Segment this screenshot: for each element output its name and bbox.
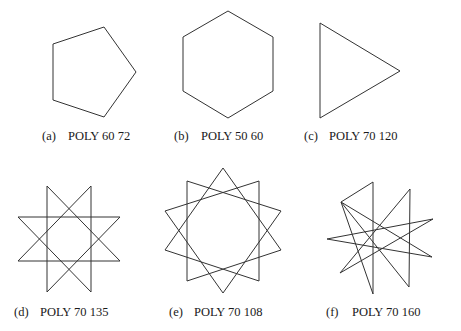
- caption-tag-b: (b): [174, 130, 189, 143]
- hexagon-shape-b: [183, 11, 273, 118]
- caption-label-e: POLY 70 108: [194, 306, 262, 319]
- caption-tag-c: (c): [304, 130, 318, 143]
- decagram-shape-e: [165, 168, 281, 293]
- caption-label-a: POLY 60 72: [68, 130, 130, 143]
- caption-tag-a: (a): [42, 130, 56, 143]
- polygon-figure: [0, 0, 461, 331]
- caption-label-c: POLY 70 120: [329, 130, 397, 143]
- caption-label-d: POLY 70 135: [40, 306, 108, 319]
- octagram-shape-d: [18, 186, 120, 292]
- caption-tag-e: (e): [169, 306, 183, 319]
- pentagon-shape-a: [53, 27, 136, 117]
- caption-label-f: POLY 70 160: [352, 306, 420, 319]
- caption-tag-d: (d): [14, 306, 29, 319]
- caption-label-b: POLY 50 60: [201, 130, 263, 143]
- caption-tag-f: (f): [326, 306, 339, 319]
- enneagram-shape-f: [327, 182, 433, 294]
- triangle-shape-c: [320, 23, 400, 118]
